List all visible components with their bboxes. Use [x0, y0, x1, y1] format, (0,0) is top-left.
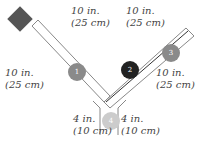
circle-2: 2 [121, 61, 139, 79]
dimension-metric: (10 cm) [121, 125, 160, 137]
dimension-metric: (25 cm) [126, 17, 165, 29]
dimension-label-left-arm-lower: 10 in. (25 cm) [5, 67, 44, 91]
circle-1: 1 [68, 63, 86, 81]
dimension-label-stem-right: 4 in. (10 cm) [121, 113, 160, 137]
dimension-imperial: 10 in. [126, 5, 165, 17]
svg-text:2: 2 [128, 66, 132, 74]
dimension-imperial: 4 in. [121, 113, 160, 125]
dimension-label-stem-left: 4 in. (10 cm) [73, 113, 112, 137]
svg-text:3: 3 [169, 49, 173, 57]
dimension-metric: (25 cm) [5, 79, 44, 91]
dimension-imperial: 4 in. [73, 113, 112, 125]
dimension-imperial: 10 in. [156, 67, 195, 79]
diamond-marker [7, 6, 32, 31]
dimension-metric: (10 cm) [73, 125, 112, 137]
dimension-metric: (25 cm) [156, 79, 195, 91]
circle-3: 3 [162, 44, 180, 62]
svg-text:1: 1 [75, 68, 79, 76]
dimension-imperial: 10 in. [5, 67, 44, 79]
dimension-imperial: 10 in. [71, 5, 110, 17]
dimension-label-right-arm-top: 10 in. (25 cm) [126, 5, 165, 29]
dimension-label-left-arm-top: 10 in. (25 cm) [71, 5, 110, 29]
dimension-metric: (25 cm) [71, 17, 110, 29]
dimension-label-right-arm-lower: 10 in. (25 cm) [156, 67, 195, 91]
